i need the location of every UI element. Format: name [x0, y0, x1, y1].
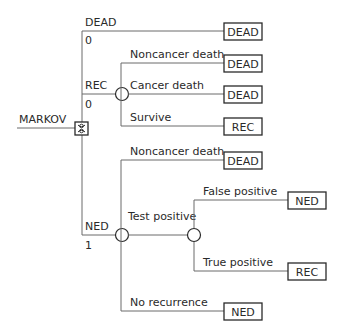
chance-node-test-positive — [188, 229, 201, 242]
state-label-ned: NED — [85, 220, 109, 233]
state-prob-ned: 1 — [85, 239, 92, 252]
state-label-rec: REC — [85, 79, 108, 92]
markov-decision-tree: MARKOV DEAD 0 DEAD REC 0 Noncancer death… — [0, 0, 339, 335]
terminal-label: NED — [231, 306, 255, 319]
terminal-label: REC — [296, 266, 319, 279]
branch-label: True positive — [202, 256, 273, 269]
state-label-dead: DEAD — [85, 16, 116, 29]
terminal-label: DEAD — [227, 155, 258, 168]
branch-label: No recurrence — [130, 296, 208, 309]
chance-node-rec — [116, 88, 129, 101]
root-label: MARKOV — [19, 113, 67, 126]
state-prob-rec: 0 — [85, 98, 92, 111]
branch-label: False positive — [203, 185, 277, 198]
state-prob-dead: 0 — [85, 34, 92, 47]
chance-node-ned — [116, 229, 129, 242]
terminal-label: DEAD — [227, 89, 258, 102]
terminal-label: REC — [232, 121, 255, 134]
branch-label: Noncancer death — [130, 48, 224, 61]
branch-label: Test positive — [127, 210, 197, 223]
branch-label: Noncancer death — [130, 145, 224, 158]
terminal-label: NED — [295, 195, 319, 208]
branch-label: Cancer death — [130, 79, 204, 92]
terminal-label: DEAD — [227, 26, 258, 39]
terminal-label: DEAD — [227, 58, 258, 71]
branch-label: Survive — [130, 111, 172, 124]
